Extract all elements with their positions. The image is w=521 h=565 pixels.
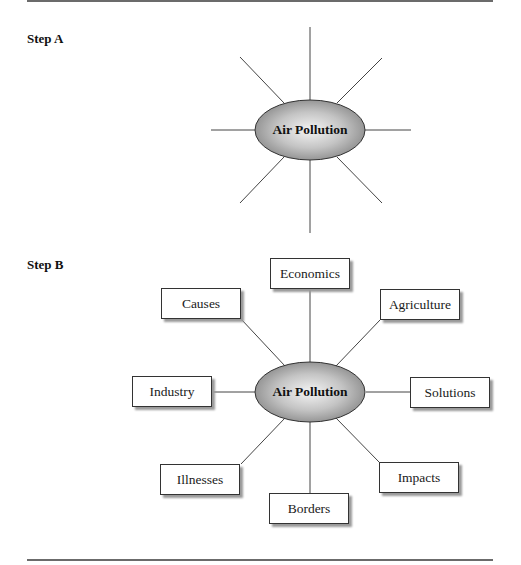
step-b-center-label: Air Pollution	[255, 384, 365, 400]
node-impacts: Impacts	[379, 462, 459, 493]
node-borders: Borders	[269, 493, 349, 524]
node-industry: Industry	[132, 376, 212, 407]
node-solutions: Solutions	[410, 377, 490, 408]
node-agriculture: Agriculture	[380, 289, 460, 320]
node-economics: Economics	[270, 258, 350, 289]
node-causes: Causes	[161, 288, 241, 319]
step-a-center-label: Air Pollution	[255, 122, 365, 138]
node-illnesses: Illnesses	[160, 464, 240, 495]
